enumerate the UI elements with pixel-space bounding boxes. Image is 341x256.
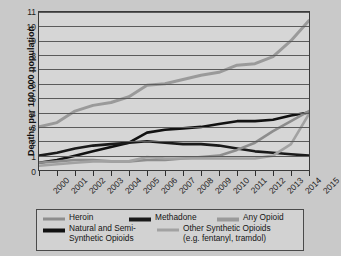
legend-swatch-other-synthetic xyxy=(157,228,179,232)
x-label-2004: 2004 xyxy=(124,176,143,195)
x-label-2007: 2007 xyxy=(178,176,197,195)
x-label-2000: 2000 xyxy=(52,176,71,195)
y-tick-0: 0 xyxy=(31,168,36,177)
legend-label-natural-semi-synthetic: Natural and Semi- Synthetic Opioids xyxy=(69,224,136,243)
legend-swatch-methadone xyxy=(129,217,151,222)
legend-label-heroin: Heroin xyxy=(69,213,93,222)
y-tick-7: 7 xyxy=(31,66,36,75)
y-tick-4: 4 xyxy=(31,110,36,119)
gridline-4 xyxy=(39,113,309,114)
y-tick-5: 5 xyxy=(31,95,36,104)
gridline-8 xyxy=(39,55,309,56)
legend-label-other-synthetic: Other Synthetic Opioids (e.g. fentanyl, … xyxy=(183,224,271,243)
gridline-1 xyxy=(39,156,309,157)
chart-legend: Heroin Methadone Any Opioid xyxy=(36,209,304,251)
x-label-2009: 2009 xyxy=(214,176,233,195)
gridline-11 xyxy=(39,12,309,13)
legend-item-any-opioid: Any Opioid xyxy=(217,213,284,222)
x-label-2014: 2014 xyxy=(304,176,323,195)
legend-item-natural-semi-synthetic: Natural and Semi- Synthetic Opioids xyxy=(43,224,157,243)
legend-swatch-natural-semi-synthetic xyxy=(43,228,65,233)
legend-label-methadone: Methadone xyxy=(155,213,197,222)
plot-wrap xyxy=(38,11,310,171)
legend-item-other-synthetic: Other Synthetic Opioids (e.g. fentanyl, … xyxy=(157,224,271,243)
legend-label-any-opioid: Any Opioid xyxy=(243,213,284,222)
plot-area xyxy=(38,11,310,171)
gridline-5 xyxy=(39,98,309,99)
legend-row-1: Heroin Methadone Any Opioid xyxy=(43,213,298,222)
y-tick-8: 8 xyxy=(31,51,36,60)
legend-label-other-line2: (e.g. fentanyl, tramdol) xyxy=(183,233,266,243)
x-label-2010: 2010 xyxy=(232,176,251,195)
gridline-3 xyxy=(39,127,309,128)
gridline-2 xyxy=(39,141,309,142)
x-label-2005: 2005 xyxy=(142,176,161,195)
gridline-7 xyxy=(39,69,309,70)
y-tick-6: 6 xyxy=(31,80,36,89)
legend-label-natural-line2: Synthetic Opioids xyxy=(69,233,134,243)
legend-item-methadone: Methadone xyxy=(129,213,217,222)
y-tick-1: 1 xyxy=(31,153,36,162)
x-label-2002: 2002 xyxy=(88,176,107,195)
y-tick-11: 11 xyxy=(27,8,36,17)
series-lines xyxy=(39,12,309,170)
x-label-2013: 2013 xyxy=(286,176,305,195)
x-label-2011: 2011 xyxy=(249,176,268,195)
x-axis-tick-labels: 2000200120022003200420052006200720082009… xyxy=(38,176,310,206)
x-label-2015: 2015 xyxy=(322,176,341,195)
gridline-6 xyxy=(39,84,309,85)
series-line-any-opioid xyxy=(39,21,309,127)
gridline-9 xyxy=(39,41,309,42)
x-label-2012: 2012 xyxy=(268,176,287,195)
y-axis-tick-labels: 01234567891011 xyxy=(18,11,36,171)
legend-swatch-any-opioid xyxy=(217,217,239,222)
x-label-2001: 2001 xyxy=(70,176,89,195)
legend-swatch-heroin xyxy=(43,217,65,221)
x-label-2003: 2003 xyxy=(106,176,125,195)
y-tick-3: 3 xyxy=(31,124,36,133)
y-tick-10: 10 xyxy=(27,22,36,31)
series-line-other-synthetic-opioids-e-g-fentanyl-tramdol xyxy=(39,114,309,166)
x-label-2008: 2008 xyxy=(196,176,215,195)
legend-row-2: Natural and Semi- Synthetic Opioids Othe… xyxy=(43,224,298,243)
legend-item-heroin: Heroin xyxy=(43,213,129,222)
y-tick-9: 9 xyxy=(31,37,36,46)
gridline-10 xyxy=(39,26,309,27)
y-tick-2: 2 xyxy=(31,139,36,148)
x-label-2006: 2006 xyxy=(160,176,179,195)
